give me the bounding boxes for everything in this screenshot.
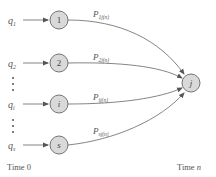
state-node-2-label: 2	[57, 58, 62, 68]
state-node-2: 2	[50, 54, 68, 72]
state-node-s: s	[50, 136, 68, 154]
input-arrows	[23, 20, 48, 145]
edge-2-to-j	[68, 63, 182, 78]
state-node-i: i	[50, 95, 68, 113]
input-labels: q1 q2 qi qs	[8, 15, 16, 152]
state-node-1-label: 1	[57, 15, 62, 25]
transition-edges	[68, 20, 184, 145]
input-label-2: q2	[8, 58, 16, 70]
input-label-i: qi	[8, 99, 15, 111]
input-label-1: q1	[8, 15, 16, 27]
markov-diagram: q1 q2 qi qs P1j(n) P2j(n) Pij(n) Psj(n) …	[0, 0, 216, 177]
state-node-1: 1	[50, 11, 68, 29]
prob-label-ij: Pij(n)	[92, 92, 108, 104]
edge-1-to-j	[68, 20, 184, 74]
target-node-j-label: j	[189, 78, 193, 88]
input-label-s: qs	[8, 140, 16, 152]
edge-s-to-j	[68, 93, 184, 145]
prob-label-2j: P2j(n)	[92, 52, 109, 64]
time-start-label: Time 0	[7, 162, 31, 172]
ellipsis-dots-lower	[12, 119, 14, 133]
edge-i-to-j	[68, 88, 182, 104]
ellipsis-dots-upper	[12, 77, 14, 91]
state-node-s-label: s	[57, 140, 61, 150]
prob-label-1j: P1j(n)	[92, 9, 109, 21]
target-node-j: j	[182, 74, 200, 92]
time-end-label: Time n	[177, 162, 201, 172]
prob-label-sj: Psj(n)	[92, 126, 109, 138]
transition-labels: P1j(n) P2j(n) Pij(n) Psj(n)	[92, 9, 109, 138]
